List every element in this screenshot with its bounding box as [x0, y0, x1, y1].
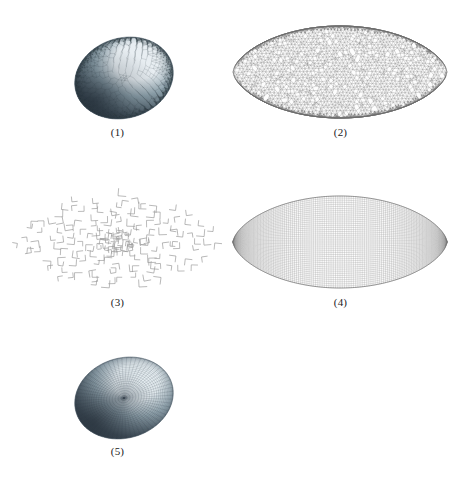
panel-3: (3): [6, 172, 229, 324]
panel-4: (4): [229, 172, 452, 324]
panel-3-caption: (3): [6, 296, 229, 308]
panel-2-caption: (2): [229, 126, 452, 138]
panel-4-caption: (4): [229, 296, 452, 308]
lens-quadrilateral-mesh-graphic: [229, 172, 452, 294]
dome-triangular-mesh-graphic: [6, 6, 229, 124]
mesh-figure: (1) (2) (3) (4) (5): [0, 0, 458, 478]
lens-triangular-mesh-graphic: [229, 6, 452, 124]
panel-1: (1): [6, 6, 229, 154]
panel-2: (2): [229, 6, 452, 154]
lens-corner-marker-graphic: [6, 172, 229, 294]
dome-quadrilateral-mesh-graphic: [6, 330, 229, 442]
panel-5-caption: (5): [6, 445, 229, 457]
panel-5: (5): [6, 330, 229, 472]
panel-1-caption: (1): [6, 126, 229, 138]
